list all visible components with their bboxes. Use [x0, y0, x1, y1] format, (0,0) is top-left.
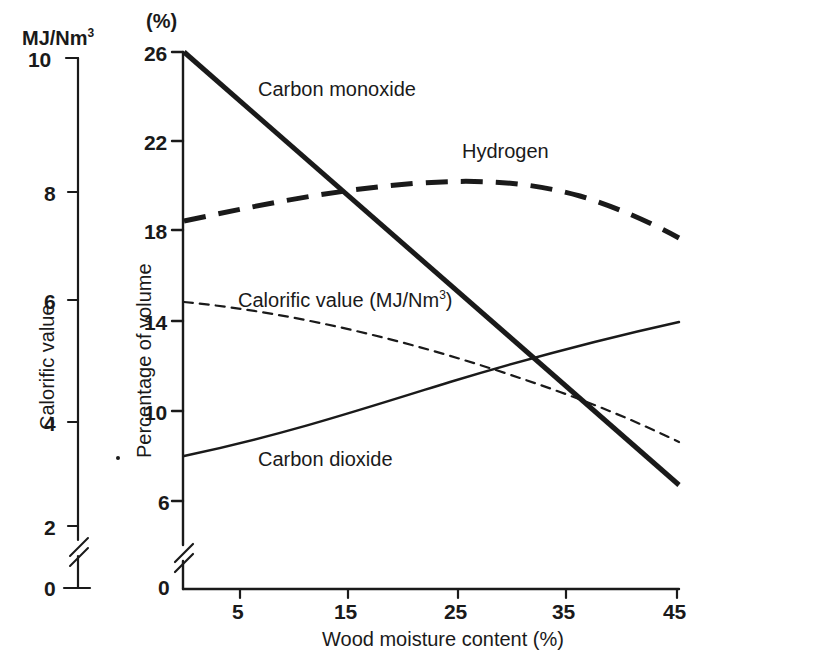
chart-figure: MJ/Nm3 10 8 6 4 2 0 Calorific value (%) …: [0, 0, 823, 664]
series-carbon-monoxide: [184, 52, 679, 485]
primary-y-axis-spine: [172, 52, 193, 589]
plot-canvas: [0, 0, 823, 664]
series-carbon-dioxide: [184, 322, 679, 456]
x-axis-spine: [183, 589, 679, 598]
series-hydrogen: [184, 181, 679, 238]
secondary-axis-spine: [64, 58, 90, 588]
